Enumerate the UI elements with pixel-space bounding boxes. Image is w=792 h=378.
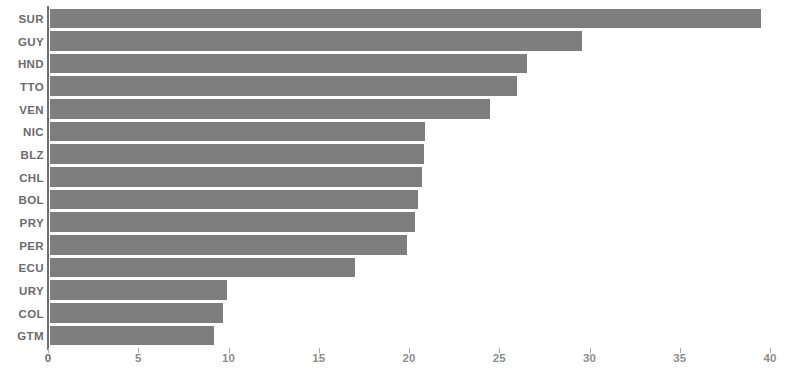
y-axis-label: HND: [0, 53, 44, 76]
bar-series: [50, 8, 792, 348]
bar-row: [50, 76, 792, 99]
x-axis-tick-label: 15: [312, 352, 325, 364]
bar: [50, 122, 425, 142]
bar-row: [50, 303, 792, 326]
bar: [50, 258, 355, 278]
y-axis-category-labels: SUR GUY HND TTO VEN NIC BLZ CHL BOL PRY …: [0, 8, 44, 348]
bar-row: [50, 235, 792, 258]
bar-row: [50, 8, 792, 31]
y-axis-label: TTO: [0, 76, 44, 99]
bar-row: [50, 31, 792, 54]
x-axis-tick-label: 5: [135, 352, 141, 364]
y-axis-label: BOL: [0, 189, 44, 212]
bar-chart: SUR GUY HND TTO VEN NIC BLZ CHL BOL PRY …: [0, 0, 792, 378]
bar-row: [50, 121, 792, 144]
bar-row: [50, 189, 792, 212]
y-axis-label: VEN: [0, 99, 44, 122]
bar: [50, 54, 527, 74]
y-axis-label: CHL: [0, 167, 44, 190]
y-axis-label: COL: [0, 303, 44, 326]
x-axis-tick-label: 40: [764, 352, 777, 364]
y-axis-label: NIC: [0, 121, 44, 144]
y-axis-label: GTM: [0, 325, 44, 348]
bar: [50, 31, 582, 51]
bar-row: [50, 99, 792, 122]
y-axis-label: GUY: [0, 31, 44, 54]
x-axis-tick-label: 30: [583, 352, 596, 364]
y-axis-label: PER: [0, 235, 44, 258]
x-axis-tick-label: 10: [222, 352, 235, 364]
x-axis: 0510152025303540: [0, 348, 792, 378]
bar: [50, 280, 227, 300]
bar-row: [50, 53, 792, 76]
bar: [50, 190, 418, 210]
bar: [50, 76, 517, 96]
y-axis-line: [47, 6, 49, 350]
bar: [50, 326, 214, 346]
y-axis-label: BLZ: [0, 144, 44, 167]
bar: [50, 144, 424, 164]
bar-row: [50, 212, 792, 235]
bar-row: [50, 280, 792, 303]
y-axis-label: PRY: [0, 212, 44, 235]
y-axis-label: URY: [0, 280, 44, 303]
x-axis-tick-label: 20: [403, 352, 416, 364]
bar: [50, 303, 223, 323]
bar: [50, 167, 422, 187]
y-axis-label: ECU: [0, 257, 44, 280]
bar: [50, 212, 415, 232]
bar-row: [50, 144, 792, 167]
bar: [50, 235, 407, 255]
x-axis-tick-label: 0: [45, 352, 51, 364]
bar-row: [50, 167, 792, 190]
y-axis-label: SUR: [0, 8, 44, 31]
bar: [50, 9, 761, 29]
bar: [50, 99, 490, 119]
x-axis-tick-label: 35: [673, 352, 686, 364]
bar-row: [50, 325, 792, 348]
bar-row: [50, 257, 792, 280]
x-axis-tick-label: 25: [493, 352, 506, 364]
